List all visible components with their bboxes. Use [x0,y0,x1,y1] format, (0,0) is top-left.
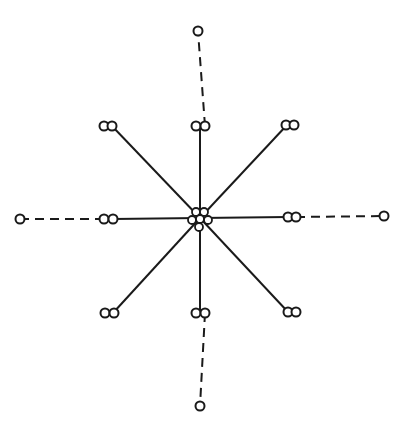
hub-node-6 [195,223,203,231]
pair-node-north-2 [201,122,210,131]
terminal-node-north [194,27,203,36]
spoke-north-east [200,125,287,218]
pair-node-south-1 [192,309,201,318]
pair-node-south-west-1 [101,309,110,318]
spoke-east [200,217,288,218]
spoke-west [113,218,200,219]
pair-node-north-1 [192,122,201,131]
dashed-extension-east [296,216,384,217]
spoke-south-east [200,218,288,312]
terminal-node-east [380,212,389,221]
spoke-south-west [113,218,200,313]
terminal-node-south [196,402,205,411]
star-diagram [0,0,404,428]
pair-node-west-1 [100,215,109,224]
pair-node-west-2 [109,215,118,224]
hub-node-4 [196,215,204,223]
pair-node-south-east-2 [292,308,301,317]
dashed-extension-north [198,31,205,126]
pair-node-east-2 [292,213,301,222]
dashed-extension-south [200,313,205,406]
spoke-north-west [112,126,200,218]
pair-node-north-east-2 [290,121,299,130]
hub-node-3 [188,216,196,224]
pair-node-south-2 [201,309,210,318]
pair-node-south-west-2 [110,309,119,318]
terminal-node-west [16,215,25,224]
pair-node-north-west-2 [108,122,117,131]
hub-node-5 [204,216,212,224]
star-network-diagram [0,0,404,428]
